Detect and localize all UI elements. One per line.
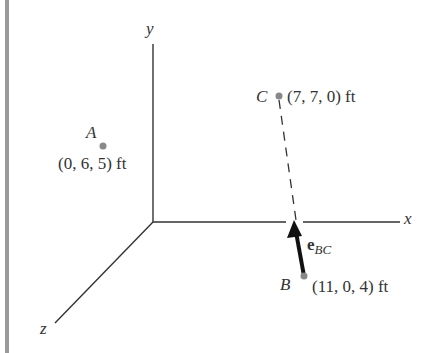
y-axis-label: y: [146, 20, 154, 37]
point-a-label: A: [86, 124, 96, 141]
vector-ebc-shaft: [296, 232, 304, 276]
x-axis-label: x: [404, 210, 412, 227]
point-c-label: C: [256, 88, 267, 105]
point-b-dot: [301, 273, 308, 280]
point-a-coords: (0, 6, 5) ft: [58, 155, 126, 172]
diagram-canvas: [0, 0, 434, 353]
z-axis-label: z: [40, 320, 47, 337]
side-bar: [5, 0, 9, 353]
point-c-dot: [276, 93, 283, 100]
vector-symbol: e: [307, 235, 315, 254]
point-c-coords: (7, 7, 0) ft: [287, 88, 355, 105]
point-b-coords: (11, 0, 4) ft: [312, 278, 388, 295]
vector-ebc-arrowhead: [287, 220, 302, 238]
line-cb-dashed: [279, 100, 296, 220]
vector-ebc-label: eBC: [307, 236, 331, 253]
vector-subscript: BC: [315, 242, 332, 257]
point-b-label: B: [280, 276, 290, 293]
point-a-dot: [100, 143, 107, 150]
z-axis: [55, 222, 153, 323]
